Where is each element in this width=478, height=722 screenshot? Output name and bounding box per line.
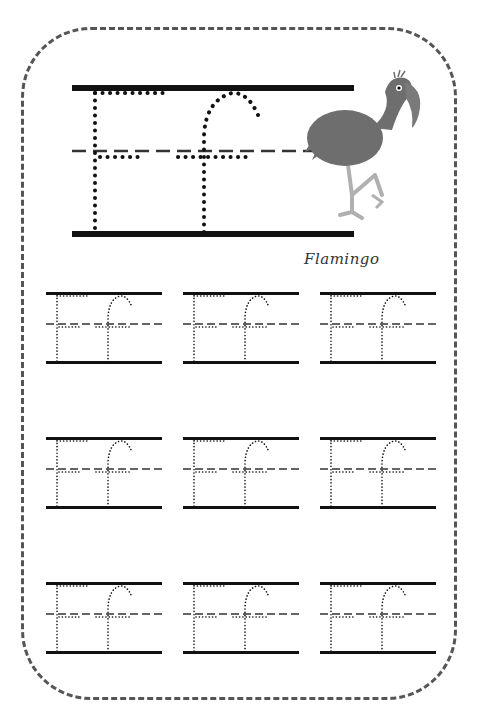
hero-tracing-example: [0, 0, 478, 260]
flamingo-caption: Flamingo: [304, 250, 379, 268]
tracing-cell: [320, 582, 438, 656]
tracing-cell: [183, 582, 301, 656]
dotted-letter-E: [95, 93, 168, 232]
tracing-cell: [46, 582, 164, 656]
tracing-cell: [183, 292, 301, 366]
tracing-cell: [183, 437, 301, 511]
bottom-guide-line: [72, 231, 354, 237]
dotted-letter-f: [178, 93, 258, 232]
tracing-cell: [320, 292, 438, 366]
tracing-cell: [46, 437, 164, 511]
tracing-cell: [46, 292, 164, 366]
tracing-cell: [320, 437, 438, 511]
flamingo-illustration: [305, 70, 420, 218]
top-guide-line: [72, 85, 354, 91]
